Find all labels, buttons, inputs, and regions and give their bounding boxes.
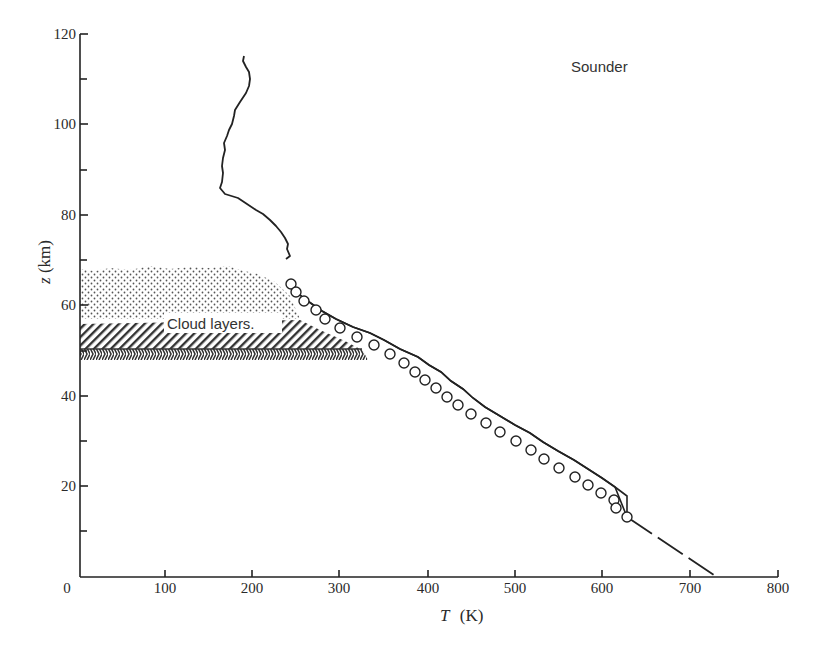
x-tick-label: 700	[679, 580, 702, 596]
x-axis-title-symbol: T	[440, 606, 451, 625]
data-marker	[311, 305, 321, 315]
data-marker	[299, 296, 309, 306]
y-tick-label: 40	[61, 388, 76, 404]
y-axis-title-unit: (km)	[35, 240, 54, 273]
y-tick-label: 120	[54, 26, 77, 42]
surface-extrapolation-line	[627, 517, 717, 577]
y-tick-label: 100	[54, 116, 77, 132]
x-tick-label: 0	[63, 580, 71, 596]
svg-text:T (K): T (K)	[440, 606, 483, 625]
data-marker	[611, 503, 621, 513]
data-marker	[291, 287, 301, 297]
y-tick-label: 20	[61, 478, 76, 494]
x-tick-label: 100	[154, 580, 177, 596]
data-marker	[369, 340, 379, 350]
data-marker	[583, 480, 593, 490]
x-axis-title-unit: (K)	[460, 606, 484, 625]
data-marker	[453, 400, 463, 410]
data-marker	[399, 358, 409, 368]
x-tick-label: 200	[241, 580, 264, 596]
data-marker	[539, 454, 549, 464]
sounder-profile-line	[220, 56, 290, 259]
data-marker	[431, 383, 441, 393]
data-marker	[420, 375, 430, 385]
x-tick-label: 800	[767, 580, 790, 596]
data-marker	[511, 436, 521, 446]
data-marker	[526, 445, 536, 455]
y-tick-label: 80	[61, 207, 76, 223]
x-tick-label: 600	[591, 580, 614, 596]
y-tick-labels: 120 100 80 60 40 20	[54, 26, 77, 494]
x-tick-label: 400	[417, 580, 440, 596]
sounder-label: Sounder	[571, 58, 628, 75]
measurement-markers	[286, 279, 632, 522]
data-marker	[481, 418, 491, 428]
data-marker	[385, 349, 395, 359]
x-axis-title: T (K)	[440, 606, 483, 625]
y-tick-label: 60	[61, 297, 76, 313]
data-marker	[596, 488, 606, 498]
data-marker	[442, 392, 452, 402]
data-marker	[320, 314, 330, 324]
data-marker	[622, 512, 632, 522]
cloud-stipple-region	[80, 266, 300, 319]
data-marker	[554, 463, 564, 473]
data-marker	[410, 367, 420, 377]
data-marker	[466, 409, 476, 419]
x-tick-label: 500	[504, 580, 527, 596]
data-marker	[495, 427, 505, 437]
x-tick-label: 300	[328, 580, 351, 596]
data-marker	[352, 332, 362, 342]
data-marker	[570, 472, 580, 482]
cloud-layers-label: Cloud layers.	[167, 315, 255, 332]
cloud-chevron-hatch-region	[80, 349, 368, 360]
y-axis-title: z (km)	[35, 240, 54, 285]
data-marker	[335, 323, 345, 333]
y-axis-title-symbol: z	[35, 277, 54, 285]
x-tick-labels: 0 100 200 300 400 500 600 700 800	[63, 580, 789, 596]
svg-text:z (km): z (km)	[35, 240, 54, 285]
venus-temperature-profile-chart: Cloud layers. 120 100 80 60 40	[0, 0, 816, 652]
